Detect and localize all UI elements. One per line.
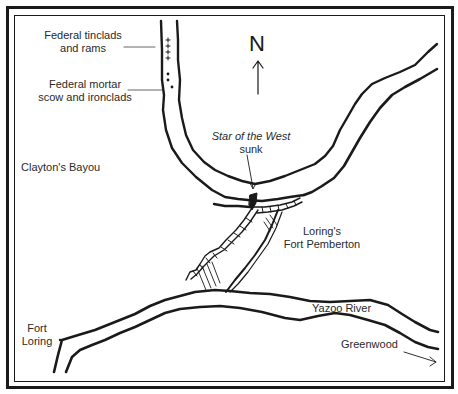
- label-line: Fort: [17, 322, 57, 335]
- fort-pemberton-west-works: [186, 208, 252, 280]
- label-claytons-bayou: Clayton's Bayou: [21, 161, 100, 174]
- tallahatchie-south-bank-east: [304, 69, 437, 195]
- west-channel-line: [214, 204, 250, 207]
- earthwork-cross-ticks: [193, 218, 252, 276]
- label-lorings-fort-pemberton: Loring's Fort Pemberton: [275, 225, 369, 251]
- label-line: Fort Pemberton: [275, 238, 369, 251]
- compass-north-label: N: [249, 33, 265, 55]
- label-line: Star of the West: [203, 130, 299, 143]
- label-greenwood: Greenwood: [341, 338, 398, 351]
- label-federal-tinclads: Federal tinclads and rams: [38, 29, 128, 55]
- label-federal-mortar: Federal mortar scow and ironclads: [33, 78, 137, 104]
- label-line: and rams: [38, 42, 128, 55]
- federal-mortar-marks: [167, 73, 174, 89]
- yazoo-north-bank: [54, 290, 438, 372]
- label-line: sunk: [203, 143, 299, 156]
- label-line: scow and ironclads: [33, 91, 137, 104]
- label-line: Federal mortar: [33, 78, 137, 91]
- label-fort-loring: Fort Loring: [17, 322, 57, 348]
- fort-loring-marker: [59, 339, 61, 341]
- label-star-of-the-west: Star of the West sunk: [203, 130, 299, 156]
- north-arrow-icon: [253, 61, 263, 94]
- label-line: Federal tinclads: [38, 29, 128, 42]
- label-line: Loring's: [275, 225, 369, 238]
- tallahatchie-west-bank: [161, 21, 304, 201]
- map-canvas: [0, 0, 458, 394]
- federal-tinclads-marks: [166, 38, 170, 60]
- tallahatchie-east-bank: [177, 21, 437, 184]
- label-yazoo-river: Yazoo River: [312, 302, 371, 315]
- greenwood-arrow-icon: [404, 352, 436, 366]
- fort-pemberton-west-works-inner: [191, 210, 258, 279]
- label-line: Loring: [17, 335, 57, 348]
